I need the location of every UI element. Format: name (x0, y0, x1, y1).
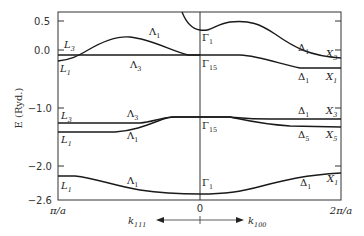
arrow-right-icon (236, 217, 244, 223)
label-Gamma1-bot: Γ1 (202, 177, 213, 191)
label-Delta5-mid: Δ5 (298, 129, 309, 143)
label-X3-mid: X3 (325, 105, 337, 119)
right-axis-ticks (335, 21, 341, 166)
label-Lambda3-top: Λ3 (129, 59, 141, 73)
k100-label: k100 (248, 215, 266, 229)
label-Delta1-bot: Δ1 (300, 177, 311, 191)
arrow-left-icon (156, 217, 164, 223)
label-L3-top: L3 (63, 39, 75, 53)
label-Delta1-top-b: Δ1 (298, 71, 309, 85)
label-Lambda1-mid: Λ1 (126, 130, 138, 144)
label-L1-bot: L1 (60, 180, 72, 194)
x-tick-pi-over-a: π/a (49, 205, 66, 216)
label-Delta1-top-a: Δ1 (298, 42, 309, 56)
y-tick-minus2.0: −2.0 (28, 161, 52, 172)
direction-arrows: k111 k100 (128, 215, 266, 229)
label-L3-mid: L3 (60, 110, 72, 124)
label-Gamma1-top: Γ1 (202, 32, 213, 46)
band-structure-diagram: 0.5 0.0 −1.0 −2.0 −2.6 E (Ryd.) π/a 0 2π… (0, 0, 364, 236)
k111-label: k111 (128, 215, 146, 229)
label-Lambda1-bot: Λ1 (126, 175, 138, 189)
y-tick-0.0: 0.0 (34, 45, 50, 56)
label-X1-bot: X1 (326, 173, 338, 187)
y-axis-title: E (Ryd.) (13, 87, 24, 128)
label-Delta1-mid: Δ1 (298, 105, 309, 119)
label-Lambda3-mid: Λ3 (126, 108, 138, 122)
label-L1-top: L1 (59, 63, 71, 77)
x-tick-2pi-over-a: 2π/a (329, 205, 352, 216)
label-Gamma15-top: Γ15 (202, 58, 217, 72)
label-L1-mid: L1 (60, 134, 72, 148)
band-lambda1-upper (58, 37, 200, 61)
y-tick-0.5: 0.5 (34, 16, 50, 27)
label-Gamma15-mid: Γ15 (202, 120, 217, 134)
x-tick-zero: 0 (197, 203, 203, 214)
y-tick-minus2.6: −2.6 (28, 195, 52, 206)
label-Lambda1-top: Λ1 (148, 26, 160, 40)
label-X1-top: X1 (325, 71, 337, 85)
label-X5-mid: X5 (325, 129, 337, 143)
y-tick-minus1.0: −1.0 (28, 103, 52, 114)
